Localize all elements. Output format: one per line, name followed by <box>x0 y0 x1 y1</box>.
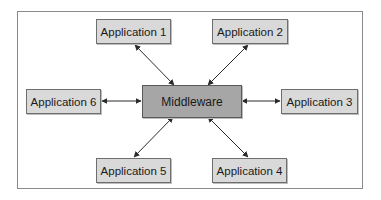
node-label: Application 2 <box>217 26 283 38</box>
node-application-2: Application 2 <box>212 19 288 44</box>
node-application-4: Application 4 <box>212 158 287 183</box>
node-application-3: Application 3 <box>281 89 358 114</box>
node-label: Application 4 <box>217 165 283 177</box>
node-middleware: Middleware <box>142 85 242 118</box>
node-application-5: Application 5 <box>96 158 171 183</box>
node-label: Application 3 <box>287 96 353 108</box>
node-application-1: Application 1 <box>96 19 171 44</box>
node-application-6: Application 6 <box>26 89 101 114</box>
center-label: Middleware <box>161 95 222 109</box>
node-label: Application 1 <box>101 26 167 38</box>
node-label: Application 5 <box>101 165 167 177</box>
node-label: Application 6 <box>31 96 97 108</box>
